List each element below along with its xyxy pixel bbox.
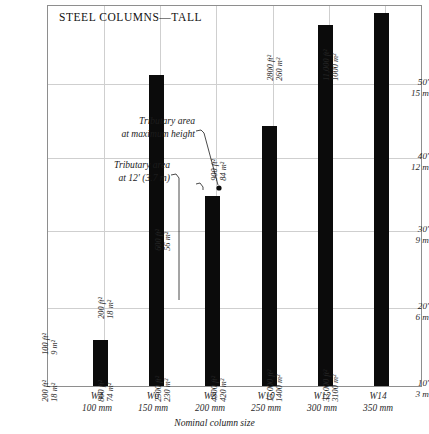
ytick-50ft-meters: 15 m xyxy=(383,88,429,99)
bar-label-w14-max-height: 11,000 ft² 1000 m² xyxy=(322,49,341,81)
plot-area xyxy=(47,5,422,387)
bar-label-w8-max-height-m: 56 m² xyxy=(164,229,173,251)
xtick-w14-mm: 350 mm xyxy=(343,402,413,414)
annotation-max-height-line2: at maximum height xyxy=(0,128,195,141)
bar-label-w14-max-height-ft: 11,000 ft² xyxy=(322,49,331,81)
bar-label-w10-max-height-ft: 900 ft² xyxy=(210,159,219,181)
bar-label-w4-at-12ft-ft: 200 ft² xyxy=(41,380,50,402)
bar-label-w6-max-height-ft: 200 ft² xyxy=(97,297,106,319)
bar-label-w4-max-height-ft: 100 ft² xyxy=(41,333,50,355)
ytick-40ft: 40' 12 m xyxy=(383,151,429,173)
bar-label-w4-at-12ft: 200 ft² 18 m² xyxy=(41,380,60,402)
ytick-40ft-feet: 40' xyxy=(383,151,429,162)
bar-label-w6-max-height: 200 ft² 18 m² xyxy=(97,297,116,319)
annotation-at-12ft: Tributary area at 12' (3.7 m) xyxy=(0,159,170,184)
xtick-w14-name: W14 xyxy=(343,390,413,402)
bar-label-w4-max-height-m: 9 m² xyxy=(51,333,60,355)
annotation-max-height: Tributary area at maximum height xyxy=(0,115,195,140)
bar-label-w4-max-height: 100 ft² 9 m² xyxy=(41,333,60,355)
bar-label-w10-max-height: 900 ft² 84 m² xyxy=(210,159,229,181)
steel-columns-chart: STEEL COLUMNS—TALL 50' 15 m 40' 12 m 30'… xyxy=(0,0,429,434)
annotation-at-12ft-line1: Tributary area xyxy=(0,159,170,172)
ytick-10ft-feet: 10' xyxy=(383,378,429,389)
chart-title: STEEL COLUMNS—TALL xyxy=(59,11,202,23)
ytick-20ft: 20' 6 m xyxy=(383,301,429,323)
ytick-20ft-meters: 6 m xyxy=(383,312,429,323)
x-axis-title: Nominal column size xyxy=(0,417,429,428)
bar-w14-at-12ft xyxy=(377,13,389,386)
ytick-50ft: 50' 15 m xyxy=(383,77,429,99)
bar-w8-at-12ft xyxy=(208,196,220,386)
ytick-40ft-meters: 12 m xyxy=(383,162,429,173)
bar-label-w12-max-height-m: 260 m² xyxy=(276,55,285,81)
annotation-max-height-line1: Tributary area xyxy=(0,115,195,128)
bar-label-w8-max-height-ft: 600 ft² xyxy=(154,229,163,251)
bar-label-w12-max-height: 2800 ft² 260 m² xyxy=(266,55,285,81)
ytick-30ft-meters: 9 m xyxy=(383,235,429,246)
ytick-50ft-feet: 50' xyxy=(383,77,429,88)
gridline-vertical-1 xyxy=(104,6,105,386)
bar-label-w4-at-12ft-m: 18 m² xyxy=(51,380,60,402)
bar-label-w8-max-height: 600 ft² 56 m² xyxy=(154,229,173,251)
ytick-30ft: 30' 9 m xyxy=(383,224,429,246)
bar-label-w6-max-height-m: 18 m² xyxy=(107,297,116,319)
bar-w10-at-12ft xyxy=(265,126,277,386)
bar-label-w10-max-height-m: 84 m² xyxy=(220,159,229,181)
xtick-w14: W14 350 mm xyxy=(343,390,413,414)
bar-label-w14-max-height-m: 1000 m² xyxy=(332,49,341,81)
annotation-at-12ft-line2: at 12' (3.7 m) xyxy=(0,172,170,185)
bar-label-w12-max-height-ft: 2800 ft² xyxy=(266,55,275,81)
ytick-30ft-feet: 30' xyxy=(383,224,429,235)
ytick-20ft-feet: 20' xyxy=(383,301,429,312)
